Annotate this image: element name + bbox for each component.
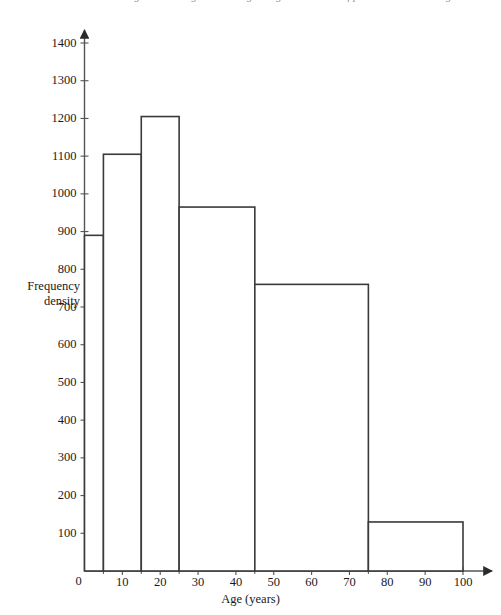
plot-area: 1002003004005006007008009001000110012001… bbox=[0, 0, 501, 615]
y-tick-label: 200 bbox=[25, 489, 77, 502]
y-tick-label: 1100 bbox=[25, 150, 77, 163]
histogram-figure: Figure 1: Histogram showing the age dist… bbox=[0, 0, 501, 615]
x-tick-label: 10 bbox=[102, 576, 142, 589]
y-tick-label: 600 bbox=[25, 338, 77, 351]
x-tick-label: 100 bbox=[443, 576, 483, 589]
histogram-bar bbox=[179, 207, 255, 571]
x-tick-label: 90 bbox=[405, 576, 445, 589]
y-tick-label: 800 bbox=[25, 263, 77, 276]
y-axis-title: Frequency density bbox=[8, 279, 80, 309]
histogram-bar bbox=[103, 154, 141, 571]
histogram-bar bbox=[368, 522, 463, 571]
x-tick-label: 30 bbox=[178, 576, 218, 589]
x-axis-title: Age (years) bbox=[0, 592, 501, 607]
y-tick-label: 900 bbox=[25, 225, 77, 238]
histogram-bar bbox=[141, 117, 179, 571]
histogram-bar bbox=[85, 235, 104, 571]
y-tick-label: 1200 bbox=[25, 112, 77, 125]
y-axis-title-line2: density bbox=[8, 294, 80, 309]
bars-group bbox=[85, 117, 464, 571]
y-axis-title-line1: Frequency bbox=[27, 279, 80, 293]
y-tick-label: 500 bbox=[25, 376, 77, 389]
x-tick-label: 20 bbox=[140, 576, 180, 589]
y-tick-label: 300 bbox=[25, 451, 77, 464]
y-tick-label: 400 bbox=[25, 414, 77, 427]
x-tick-label: 40 bbox=[216, 576, 256, 589]
y-tick-label: 100 bbox=[25, 527, 77, 540]
x-tick-label: 60 bbox=[292, 576, 332, 589]
x-tick-label: 70 bbox=[329, 576, 369, 589]
y-tick-label: 1000 bbox=[25, 187, 77, 200]
origin-label: 0 bbox=[76, 575, 82, 588]
x-tick-label: 80 bbox=[367, 576, 407, 589]
y-tick-label: 1400 bbox=[25, 37, 77, 50]
y-tick-label: 1300 bbox=[25, 74, 77, 87]
histogram-bar bbox=[255, 284, 369, 571]
x-tick-label: 50 bbox=[254, 576, 294, 589]
